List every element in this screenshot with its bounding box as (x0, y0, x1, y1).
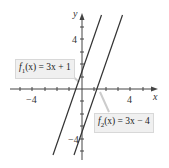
x-axis-label: x (152, 91, 158, 102)
y-tick-label-4: 4 (72, 34, 77, 45)
y-axis-label: y (72, 8, 78, 19)
f2-leader-line (100, 92, 109, 112)
f2-expression: (x) = 3x − 4 (104, 116, 150, 126)
y-axis-arrow-icon (80, 13, 85, 20)
line-f2 (74, 15, 123, 155)
graph-canvas: −4 4 4 −4 x y (0, 0, 169, 168)
callout-f1: f1(x) = 3x + 1 (15, 59, 75, 79)
callout-f2: f2(x) = 3x − 4 (94, 113, 154, 133)
x-tick-label-4: 4 (127, 94, 132, 105)
x-tick-label-neg4: −4 (26, 94, 37, 105)
y-tick-label-neg4: −4 (68, 134, 79, 145)
f1-expression: (x) = 3x + 1 (25, 62, 71, 72)
